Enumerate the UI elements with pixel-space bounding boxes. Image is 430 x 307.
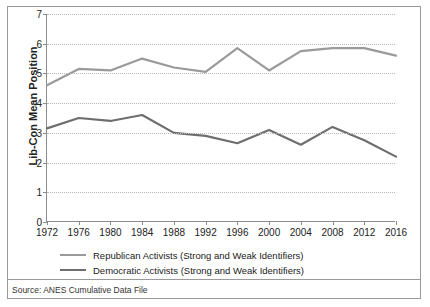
x-tick-label: 2016 xyxy=(385,227,407,238)
source-note: Source: ANES Cumulative Data File xyxy=(12,285,148,295)
x-tick-label: 1980 xyxy=(99,227,121,238)
x-tick-label: 1996 xyxy=(226,227,248,238)
y-tick-mark xyxy=(43,133,47,134)
x-tick-mark xyxy=(206,221,207,225)
gridline xyxy=(47,163,395,164)
y-tick-label: 0 xyxy=(36,217,42,228)
x-tick-mark xyxy=(237,221,238,225)
chart-legend: Republican Activists (Strong and Weak Id… xyxy=(60,248,380,278)
x-tick-label: 1992 xyxy=(195,227,217,238)
x-tick-mark xyxy=(174,221,175,225)
y-tick-label: 7 xyxy=(36,9,42,20)
x-tick-label: 1988 xyxy=(163,227,185,238)
x-tick-mark xyxy=(142,221,143,225)
x-tick-label: 2000 xyxy=(258,227,280,238)
x-tick-mark xyxy=(301,221,302,225)
gridline xyxy=(47,14,395,15)
x-tick-label: 1976 xyxy=(68,227,90,238)
x-tick-label: 2012 xyxy=(353,227,375,238)
chart-figure: Lib-Con Mean Position 012345671972197619… xyxy=(0,0,430,307)
x-tick-mark xyxy=(110,221,111,225)
y-tick-mark xyxy=(43,14,47,15)
y-tick-label: 4 xyxy=(36,98,42,109)
x-tick-mark xyxy=(47,221,48,225)
source-divider xyxy=(8,279,420,280)
series-lines xyxy=(47,14,396,222)
legend-swatch-democratic xyxy=(60,269,86,271)
x-tick-label: 2004 xyxy=(290,227,312,238)
y-tick-mark xyxy=(43,44,47,45)
legend-label-republican: Republican Activists (Strong and Weak Id… xyxy=(93,250,304,261)
legend-item-republican: Republican Activists (Strong and Weak Id… xyxy=(60,248,380,262)
x-tick-mark xyxy=(396,221,397,225)
x-tick-label: 1972 xyxy=(36,227,58,238)
x-tick-mark xyxy=(364,221,365,225)
gridline xyxy=(47,73,395,74)
legend-item-democratic: Democratic Activists (Strong and Weak Id… xyxy=(60,263,380,277)
gridline xyxy=(47,44,395,45)
y-tick-label: 2 xyxy=(36,157,42,168)
x-tick-mark xyxy=(269,221,270,225)
gridline xyxy=(47,192,395,193)
y-tick-label: 3 xyxy=(36,127,42,138)
gridline xyxy=(47,103,395,104)
x-tick-label: 2008 xyxy=(321,227,343,238)
y-tick-mark xyxy=(43,73,47,74)
y-tick-mark xyxy=(43,163,47,164)
y-tick-mark xyxy=(43,192,47,193)
y-tick-label: 1 xyxy=(36,187,42,198)
x-tick-mark xyxy=(79,221,80,225)
series-line xyxy=(47,115,396,157)
y-tick-label: 6 xyxy=(36,38,42,49)
y-tick-label: 5 xyxy=(36,68,42,79)
x-tick-mark xyxy=(333,221,334,225)
y-tick-mark xyxy=(43,103,47,104)
plot-area: 0123456719721976198019841988199219962000… xyxy=(46,14,395,222)
x-tick-label: 1984 xyxy=(131,227,153,238)
legend-label-democratic: Democratic Activists (Strong and Weak Id… xyxy=(93,265,304,276)
series-line xyxy=(47,48,396,85)
gridline xyxy=(47,133,395,134)
legend-swatch-republican xyxy=(60,254,86,256)
